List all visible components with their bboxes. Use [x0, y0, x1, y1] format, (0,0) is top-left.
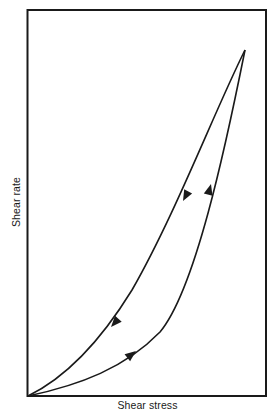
hysteresis-diagram [0, 0, 279, 419]
down-curve [28, 50, 245, 396]
y-axis-label: Shear rate [10, 177, 22, 227]
x-axis-label: Shear stress [0, 399, 279, 411]
up-curve [28, 50, 245, 396]
plot-frame [28, 10, 267, 396]
